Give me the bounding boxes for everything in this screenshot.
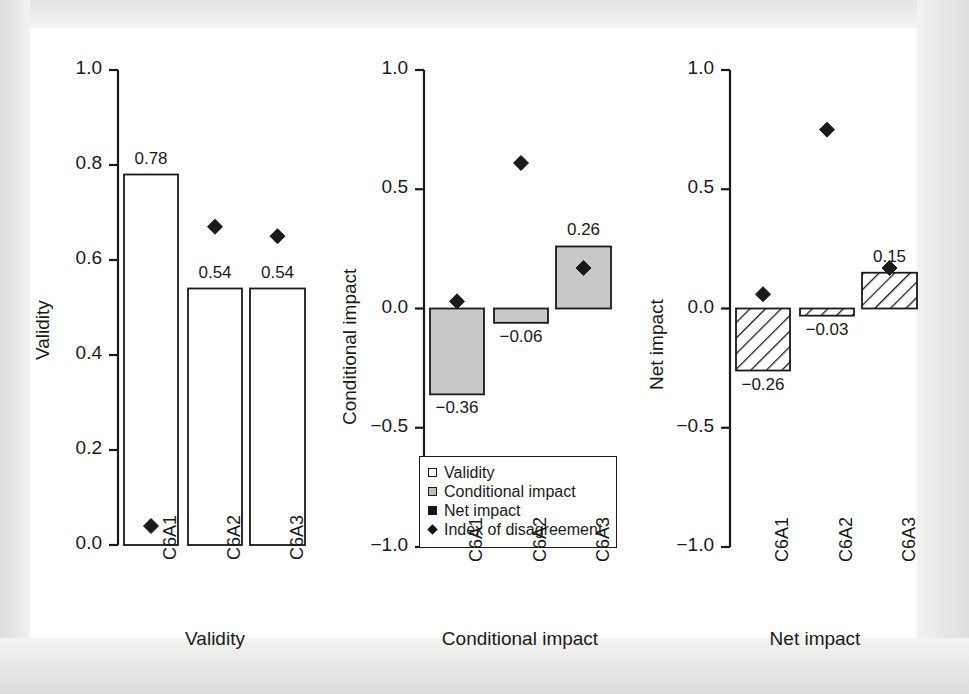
y-tick-label: 0.5: [652, 176, 714, 198]
bar-value-label: −0.06: [476, 327, 566, 347]
bar-value-label: 0.78: [106, 149, 196, 169]
net-impact-plot-canvas: [0, 0, 969, 694]
diamond-marker-C6A1: [756, 287, 771, 302]
x-category-label: C6A1: [160, 515, 181, 560]
y-tick-label: 0.4: [40, 342, 102, 364]
bar-value-label: −0.03: [782, 320, 872, 340]
y-tick-label: 0.8: [40, 152, 102, 174]
y-tick-label: 0.5: [346, 176, 408, 198]
y-tick-label: 0.2: [40, 437, 102, 459]
x-category-label: C6A2: [530, 517, 551, 562]
y-tick-label: 0.0: [346, 296, 408, 318]
x-category-label: C6A2: [836, 517, 857, 562]
x-category-label: C6A3: [593, 517, 614, 562]
diamond-marker-C6A2: [820, 122, 835, 137]
bar-value-label: 0.26: [539, 220, 629, 240]
bar-C6A3: [862, 273, 917, 309]
y-tick-label: −1.0: [346, 534, 408, 556]
x-category-label: C6A3: [899, 517, 920, 562]
bar-value-label: 0.15: [845, 247, 935, 267]
y-tick-label: 1.0: [346, 57, 408, 79]
y-tick-label: −1.0: [652, 534, 714, 556]
y-tick-label: −0.5: [652, 415, 714, 437]
x-category-label: C6A3: [287, 515, 308, 560]
y-tick-label: 0.0: [40, 532, 102, 554]
y-tick-label: 0.6: [40, 247, 102, 269]
y-tick-label: 1.0: [652, 57, 714, 79]
bar-C6A2: [800, 309, 854, 316]
net-impact-x-axis-title: Net impact: [710, 628, 920, 650]
y-tick-label: −0.5: [346, 415, 408, 437]
y-tick-label: 1.0: [40, 57, 102, 79]
bar-value-label: −0.26: [718, 375, 808, 395]
x-category-label: C6A2: [224, 515, 245, 560]
figure-root: Validity Validity Conditional impact Con…: [0, 0, 969, 694]
bar-value-label: −0.36: [412, 398, 502, 418]
x-category-label: C6A1: [772, 517, 793, 562]
bar-value-label: 0.54: [233, 263, 323, 283]
y-tick-label: 0.0: [652, 296, 714, 318]
x-category-label: C6A1: [466, 517, 487, 562]
